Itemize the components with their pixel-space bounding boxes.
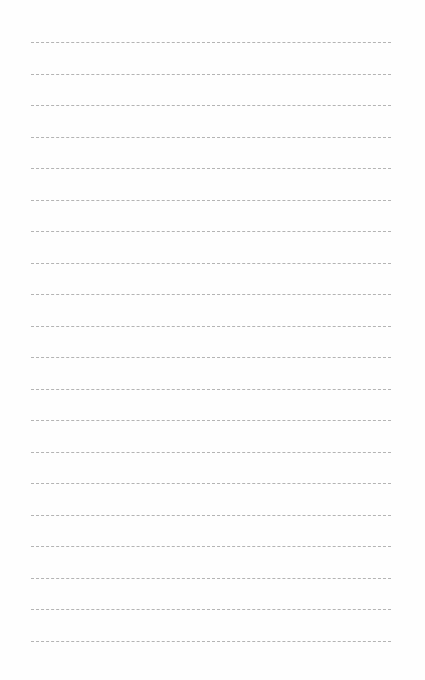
lined-paper-page (0, 0, 425, 680)
ruled-line (31, 515, 391, 516)
ruled-line (31, 231, 391, 232)
ruled-line (31, 420, 391, 421)
ruled-line (31, 326, 391, 327)
ruled-line (31, 357, 391, 358)
ruled-line (31, 168, 391, 169)
ruled-line (31, 609, 391, 610)
ruled-line (31, 137, 391, 138)
ruled-line (31, 578, 391, 579)
ruled-line (31, 105, 391, 106)
ruled-line (31, 74, 391, 75)
ruled-line (31, 546, 391, 547)
ruled-line (31, 294, 391, 295)
ruled-line (31, 483, 391, 484)
ruled-line (31, 263, 391, 264)
ruled-line (31, 389, 391, 390)
ruled-line (31, 200, 391, 201)
ruled-line (31, 641, 391, 642)
ruled-line (31, 452, 391, 453)
ruled-line (31, 42, 391, 43)
